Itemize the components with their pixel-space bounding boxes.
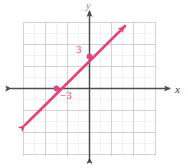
x-axis-label: x	[175, 84, 180, 95]
graph-figure: x y 3 −3	[0, 0, 188, 168]
point-x-intercept	[54, 86, 60, 92]
point-y-intercept	[87, 54, 93, 60]
y-intercept-value-label: 3	[76, 44, 82, 55]
coordinate-plane	[0, 0, 188, 168]
axes	[11, 11, 170, 158]
y-axis-label: y	[86, 1, 90, 11]
x-intercept-value-label: −3	[60, 90, 72, 101]
